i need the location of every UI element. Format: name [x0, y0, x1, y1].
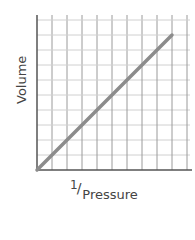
x-label-numerator: 1: [70, 178, 78, 192]
y-axis-label: Volume: [14, 64, 30, 104]
data-line: [37, 35, 172, 170]
x-label-denominator: Pressure: [82, 187, 138, 202]
x-axis-label: 1/Pressure: [70, 180, 138, 196]
